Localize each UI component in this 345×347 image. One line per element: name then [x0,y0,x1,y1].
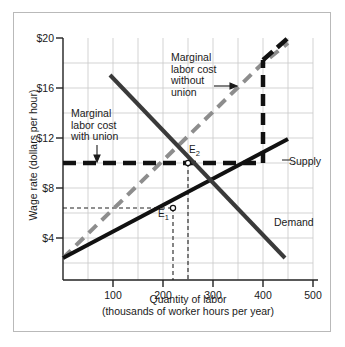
curve-label-supply: Supply [289,155,321,167]
x-axis-title: Quantity of labor [63,293,313,305]
annotation-mlc-without-union-line3: without [171,75,217,87]
point-label-e2-letter: E [189,144,196,155]
y-axis-ticks [56,38,63,238]
x-axis-subtitle: (thousands of worker hours per year) [43,305,333,317]
annotation-mlc-with-union-line3: with union [71,131,118,143]
point-label-e2: E2 [189,144,200,158]
annotation-mlc-without-union-line1: Marginal [171,52,217,64]
curve-mlc-with-union-upper [263,38,288,60]
point-label-e2-subscript: 2 [196,149,200,158]
marker-e1 [170,205,175,210]
marker-e2 [185,160,190,165]
curve-demand [110,75,285,258]
annotation-mlc-with-union-line1: Marginal [71,108,118,120]
point-label-e1: E1 [158,208,169,222]
point-label-e1-letter: E [158,208,165,219]
point-label-e1-subscript: 1 [165,213,169,222]
annotation-mlc-without-union: Marginal labor cost without union [171,52,217,98]
y-axis-title: Wage rate (dollars per hour) [27,60,39,250]
annotation-mlc-with-union: Marginal labor cost with union [71,108,118,143]
y-tick-label-20: $20 [24,32,54,44]
annotation-mlc-without-union-line4: union [171,87,217,99]
curve-label-demand: Demand [274,216,314,228]
x-axis-ticks [113,280,313,287]
economics-figure: $20 $16 $12 $8 $4 100 200 300 400 500 Wa… [0,0,345,347]
guide-lines [63,163,188,280]
